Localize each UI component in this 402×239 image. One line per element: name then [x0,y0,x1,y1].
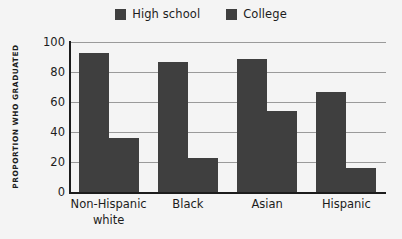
y-tick-label: 40 [50,125,65,139]
y-tick-label: 20 [50,155,65,169]
legend-label-high-school: High school [132,7,200,21]
bar [237,59,267,193]
x-category-label-line: Hispanic [322,197,371,211]
y-tick-label: 0 [58,185,65,199]
legend-item-high-school: High school [115,7,200,21]
x-category-label: Black [172,196,203,212]
bar [79,53,109,193]
bar [158,62,188,193]
x-category-label-line: Asian [251,197,282,211]
y-tick-label: 100 [43,35,65,49]
plot-area [69,42,386,192]
bar [188,158,218,193]
y-axis-title: PROPORTION WHO GRADUATED [8,40,22,192]
y-axis-tick-labels: 020406080100 [27,42,65,192]
y-tick-label: 80 [50,65,65,79]
bar [316,92,346,193]
bars-layer [69,42,386,192]
legend-swatch-high-school-icon [115,9,126,20]
x-category-label-line: Non-Hispanic [71,197,147,211]
bar [346,168,376,192]
legend-label-college: College [243,7,287,21]
x-category-label-line: Black [172,197,203,211]
x-category-label: Non-Hispanicwhite [71,196,147,228]
legend-swatch-college-icon [226,9,237,20]
x-axis-line [69,192,386,194]
x-category-label: Hispanic [322,196,371,212]
chart-legend: High school College [0,7,402,21]
bar [109,138,139,192]
x-axis-category-labels: Non-HispanicwhiteBlackAsianHispanic [69,196,386,238]
y-axis-title-text: PROPORTION WHO GRADUATED [11,44,20,188]
bar-chart: High school College PROPORTION WHO GRADU… [0,0,402,239]
y-tick-label: 60 [50,95,65,109]
x-category-label: Asian [251,196,282,212]
x-category-label-line: white [71,212,147,228]
bar [267,111,297,192]
legend-item-college: College [226,7,287,21]
